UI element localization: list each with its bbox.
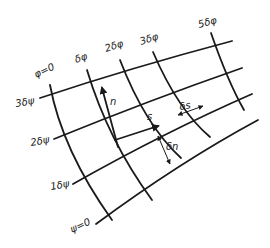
potential-line-phi0 — [50, 85, 112, 220]
label-1psi: 1δψ — [49, 178, 70, 192]
label-s: s — [147, 111, 152, 122]
flow-net-diagram: φ=0 δφ 2δφ 3δφ 5δφ 3δψ 2δψ 1δψ ψ=0 n s δ… — [0, 0, 270, 248]
label-dn: δn — [166, 141, 178, 152]
label-delta-phi: δφ — [73, 50, 89, 65]
label-3delta-phi: 3δφ — [138, 30, 160, 46]
label-psi0: ψ=0 — [68, 216, 92, 235]
label-ds: δs — [178, 99, 191, 112]
potential-line-5delta-phi — [211, 33, 244, 110]
stream-line-3psi — [40, 41, 232, 98]
label-phi0: φ=0 — [32, 61, 56, 80]
potential-line-delta-phi — [87, 70, 152, 200]
label-2psi: 2δψ — [29, 134, 50, 148]
s-vector-arrow — [115, 126, 158, 140]
potential-line-3delta-phi — [153, 52, 210, 137]
label-3psi: 3δψ — [14, 95, 35, 109]
stream-line-psi0 — [96, 120, 258, 224]
label-5delta-phi: 5δφ — [197, 14, 219, 30]
label-n: n — [110, 96, 116, 107]
label-2delta-phi: 2δφ — [103, 37, 125, 53]
